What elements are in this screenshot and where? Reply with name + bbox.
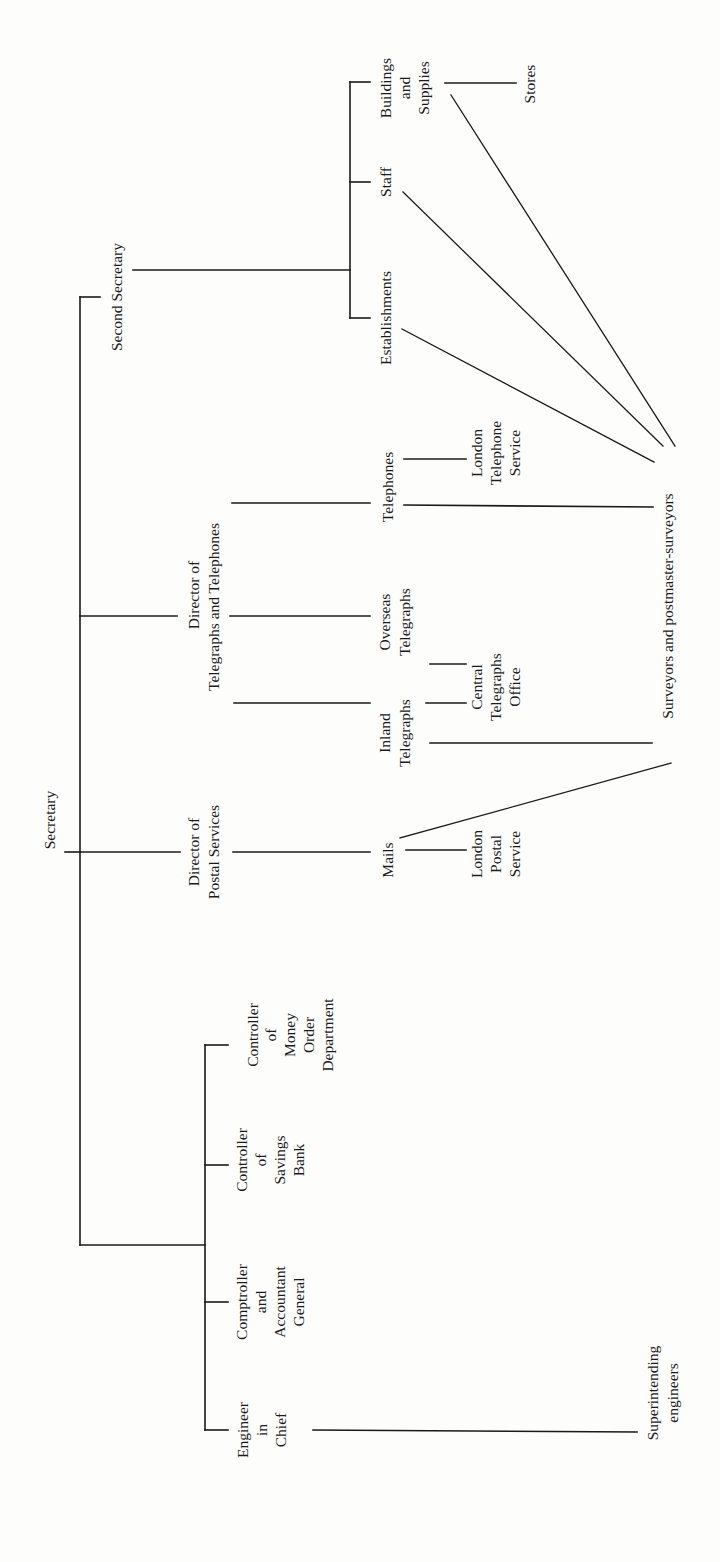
node-label: Telegraphs	[396, 588, 413, 656]
node-staff: Staff	[377, 166, 394, 197]
node-director-tt: Director of Telegraphs and Telephones	[185, 523, 222, 691]
node-mails: Mails	[379, 842, 396, 877]
line-engineer-superintending	[313, 1430, 637, 1432]
node-inland-telegraphs: Inland Telegraphs	[376, 699, 413, 767]
node-second-secretary: Second Secretary	[108, 243, 125, 351]
node-label: Controller	[244, 1002, 261, 1067]
node-label: of	[252, 1153, 269, 1167]
node-label: Service	[506, 831, 523, 878]
line-telephones-surveyors	[404, 505, 653, 507]
node-london-postal-service: London Postal Service	[468, 830, 523, 878]
node-label: London	[468, 429, 485, 477]
node-label: Chief	[272, 1412, 289, 1447]
node-label: Supplies	[415, 61, 432, 114]
node-label: Director of	[185, 560, 202, 629]
node-label: Comptroller	[233, 1263, 250, 1340]
node-label: Department	[319, 998, 336, 1072]
node-label: Accountant	[271, 1266, 288, 1338]
node-director-postal: Director of Postal Services	[185, 805, 222, 899]
node-label: Telegraphs	[396, 699, 413, 767]
node-engineer-in-chief: Engineer in Chief	[234, 1401, 289, 1458]
node-label: of	[262, 1028, 279, 1042]
node-label: Office	[506, 667, 523, 706]
node-controller-savings-bank: Controller of Savings Bank	[233, 1127, 307, 1192]
node-label: Service	[506, 430, 523, 477]
node-superintending-engineers: Superintending engineers	[644, 1345, 681, 1440]
node-label: Savings	[271, 1135, 288, 1184]
node-label: General	[290, 1277, 307, 1326]
node-secretary: Secretary	[41, 790, 58, 849]
node-label: Overseas	[376, 594, 393, 651]
node-label: Mails	[379, 842, 396, 877]
node-telephones: Telephones	[379, 452, 396, 522]
node-label: Telephone	[487, 421, 504, 485]
node-label: Telegraphs	[487, 653, 504, 721]
node-label: Central	[468, 664, 485, 710]
node-label: Telephones	[379, 452, 396, 522]
node-overseas-telegraphs: Overseas Telegraphs	[376, 588, 413, 656]
node-london-telephone-service: London Telephone Service	[468, 421, 523, 485]
node-label: Second Secretary	[108, 243, 125, 351]
node-stores: Stores	[521, 65, 538, 104]
node-label: Buildings	[377, 58, 394, 118]
node-controller-money-order: Controller of Money Order Department	[244, 998, 336, 1072]
node-label: Inland	[376, 713, 393, 753]
node-label: Staff	[377, 166, 394, 197]
node-label: and	[252, 1291, 269, 1314]
node-label: Controller	[233, 1127, 250, 1192]
node-central-telegraphs-office: Central Telegraphs Office	[468, 653, 523, 721]
line-mails-surveyors	[400, 763, 671, 838]
node-establishments: Establishments	[377, 271, 394, 365]
node-label: Telegraphs and Telephones	[205, 523, 222, 691]
org-chart: Secretary Second Secretary Director of T…	[0, 0, 720, 1562]
line-buildings-surveyors	[451, 95, 675, 446]
node-comptroller-accountant-general: Comptroller and Accountant General	[233, 1263, 307, 1340]
node-surveyors: Surveyors and postmaster-surveyors	[659, 493, 676, 718]
node-label: Bank	[290, 1143, 307, 1176]
node-label: Secretary	[41, 790, 58, 849]
line-staff-surveyors	[403, 192, 663, 446]
node-buildings-and-supplies: Buildings and Supplies	[377, 58, 432, 118]
node-label: Order	[300, 1016, 317, 1053]
node-label: London	[468, 830, 485, 878]
node-label: and	[396, 77, 413, 100]
node-label: Engineer	[234, 1401, 251, 1458]
node-label: Superintending	[644, 1345, 661, 1440]
node-label: Establishments	[377, 271, 394, 365]
connector-lines	[65, 82, 675, 1432]
node-label: Postal Services	[205, 805, 222, 899]
node-label: Money	[281, 1013, 298, 1057]
node-label: Postal	[487, 835, 504, 873]
node-label: in	[253, 1424, 270, 1436]
node-label: Director of	[185, 817, 202, 886]
node-label: Surveyors and postmaster-surveyors	[659, 493, 676, 718]
line-establishments-surveyors	[402, 329, 654, 462]
node-label: engineers	[664, 1363, 681, 1422]
node-label: Stores	[521, 65, 538, 104]
